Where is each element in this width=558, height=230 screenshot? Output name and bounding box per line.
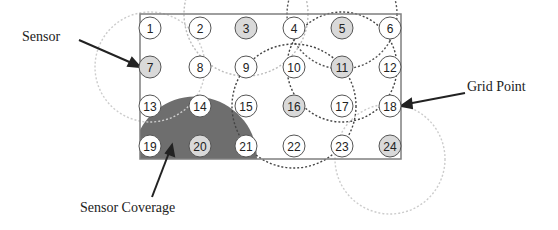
grid-point: 19 [139,135,161,157]
grid-point: 13 [139,95,161,117]
sensor-node: 24 [379,135,401,157]
sensor-coverage-label: Sensor Coverage [80,200,175,216]
grid-point: 18 [379,95,401,117]
grid-point: 14 [189,95,211,117]
grid-point: 17 [331,95,353,117]
grid-point: 9 [235,56,257,78]
grid-point-number: 21 [239,140,253,154]
grid-point-number: 5 [339,22,346,36]
grid-point: 10 [283,56,305,78]
grid-point-number: 14 [193,100,207,114]
grid-point-number: 4 [291,22,298,36]
grid-point: 22 [283,135,305,157]
grid-point-number: 3 [243,22,250,36]
grid-point: 23 [331,135,353,157]
grid-point-number: 23 [335,140,349,154]
grid-point-number: 11 [336,61,349,75]
sensor-node: 20 [189,135,211,157]
grid-point-number: 2 [197,22,204,36]
grid-point-number: 7 [147,61,154,75]
grid-point-number: 6 [387,22,394,36]
grid-point-number: 22 [287,140,301,154]
grid-point: 12 [379,56,401,78]
sensor-label: Sensor [22,29,60,45]
grid-point-number: 10 [287,61,301,75]
sensor-node: 3 [235,17,257,39]
grid-point-number: 24 [383,140,397,154]
grid-point-number: 15 [239,100,253,114]
grid-point: 6 [379,17,401,39]
grid-point: 2 [189,17,211,39]
grid-point: 4 [283,17,305,39]
sensor-node: 16 [283,95,305,117]
grid-point: 8 [189,56,211,78]
grid-point-number: 20 [193,140,207,154]
grid-point-number: 9 [243,61,250,75]
grid-point-number: 8 [197,61,204,75]
grid-point: 1 [139,17,161,39]
annotation-arrows [79,40,465,197]
grid-point-number: 12 [383,61,397,75]
grid-point-number: 1 [147,22,154,36]
sensor-node: 11 [331,56,353,78]
grid-point-label: Grid Point [467,79,526,95]
grid-point-number: 18 [383,100,397,114]
grid-point-number: 13 [143,100,157,114]
grid-point-number: 16 [287,100,301,114]
grid-point-number: 17 [335,100,349,114]
grid-point: 15 [235,95,257,117]
sensor-grid-diagram: 123456789101112131415161718192021222324 [0,0,558,230]
grid-point-number: 19 [143,140,157,154]
sensor-node: 7 [139,56,161,78]
grid-point: 21 [235,135,257,157]
sensor-node: 5 [331,17,353,39]
